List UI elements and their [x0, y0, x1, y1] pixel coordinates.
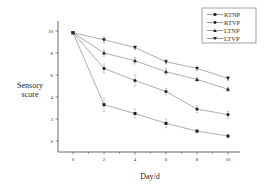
legend-label: RTNP: [224, 11, 241, 18]
y-tick-label: 10: [48, 29, 54, 34]
x-tick-label: 8: [196, 157, 199, 162]
y-axis-title-line2: score: [22, 90, 39, 99]
x-tick-label: 10: [226, 157, 232, 162]
legend-label: LTVP: [224, 35, 240, 42]
y-tick-label: 2: [51, 117, 54, 122]
series-group: [71, 31, 230, 138]
legend-label: LTNP: [224, 27, 240, 34]
y-axis-title-line1: Sensory: [17, 81, 43, 90]
x-tick-label: 6: [165, 157, 168, 162]
x-tick-label: 4: [134, 157, 137, 162]
x-axis-title: Day/d: [140, 172, 160, 181]
x-tick-label: 2: [103, 157, 106, 162]
series-rtvp: [71, 31, 229, 118]
y-tick-label: 8: [51, 51, 54, 56]
y-tick-label: 0: [51, 139, 54, 144]
line-chart: 02468100246810 RTNPRTVPLTNPLTVP Day/d Se…: [0, 0, 271, 185]
x-tick-label: 0: [72, 157, 75, 162]
legend: RTNPRTVPLTNPLTVP: [202, 8, 256, 43]
legend-label: RTVP: [224, 19, 241, 26]
y-tick-label: 4: [51, 95, 54, 100]
y-tick-label: 6: [51, 73, 54, 78]
